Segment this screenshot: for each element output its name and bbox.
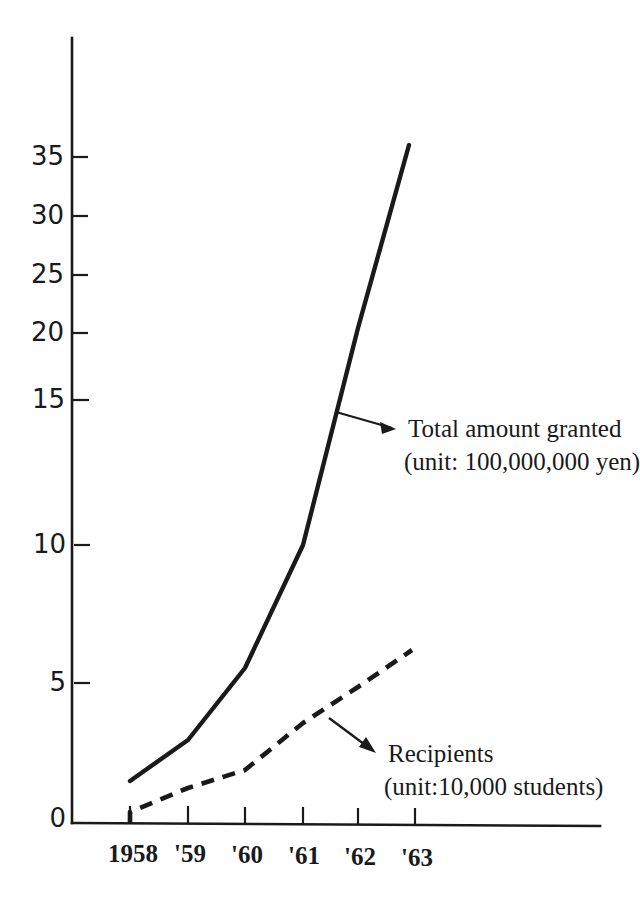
y-tick-label-35: 35 [31, 141, 64, 171]
x-tick-label-62: '62 [344, 843, 376, 870]
x-tick-label-63: '63 [401, 844, 433, 871]
y-tick-label-25: 25 [31, 259, 64, 289]
y-tick-label-0: 0 [49, 803, 66, 833]
annotation-label-recipients-line2: (unit:10,000 students) [384, 773, 603, 801]
annotation-label-recipients-line1: Recipients [388, 740, 494, 767]
y-tick-label-10: 10 [33, 529, 66, 559]
chart-figure: 35 30 25 20 15 10 5 0 1958 '59 '60 '61 '… [0, 0, 640, 906]
y-tick-label-30: 30 [31, 200, 64, 230]
x-tick-label-60: '60 [231, 841, 263, 868]
x-tick-label-61: '61 [288, 842, 320, 869]
annotation-label-total-amount-line2: (unit: 100,000,000 yen) [404, 448, 640, 476]
y-tick-label-15: 15 [32, 384, 65, 414]
x-tick-label-59: '59 [174, 840, 206, 867]
y-tick-label-20: 20 [31, 317, 64, 347]
annotation-label-total-amount-line1: Total amount granted [408, 415, 622, 442]
x-tick-label-1958: 1958 [108, 840, 158, 867]
y-tick-label-5: 5 [49, 667, 66, 697]
line-chart-canvas: 35 30 25 20 15 10 5 0 1958 '59 '60 '61 '… [0, 0, 640, 906]
